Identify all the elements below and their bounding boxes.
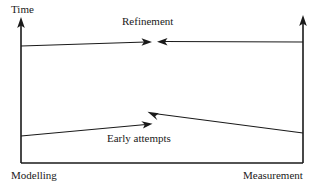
left-axis-label-modelling: Modelling [11,170,57,181]
early-attempts-label: Early attempts [107,133,171,144]
diagram-graphics [0,0,328,190]
diagram-canvas: Time Refinement Early attempts Modelling… [0,0,328,190]
right-axis-label-measurement: Measurement [243,170,303,181]
early-attempts-arrow-leftward-head-icon [148,112,159,120]
refinement-arrow-leftward-line [163,42,303,43]
refinement-label: Refinement [122,16,173,27]
y-axis-label-time: Time [11,4,34,15]
early-attempts-arrow-leftward-line [154,114,303,134]
refinement-arrow-rightward-line [21,42,146,46]
